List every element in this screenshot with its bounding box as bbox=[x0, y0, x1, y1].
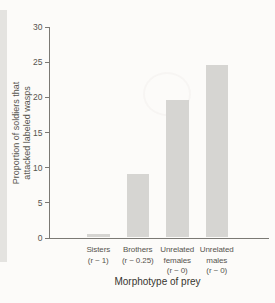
y-tick-label-10: 10 bbox=[25, 163, 43, 173]
bar-unrelated-females bbox=[166, 100, 189, 237]
y-tick-label-30: 30 bbox=[25, 22, 43, 32]
y-tick-mark-25 bbox=[45, 62, 49, 63]
x-category-label-line: Unrelated bbox=[188, 245, 246, 256]
x-category-label-line: (r ~ 0) bbox=[188, 266, 246, 277]
x-axis-title: Morphotype of prey bbox=[50, 276, 265, 288]
y-tick-label-25: 25 bbox=[25, 57, 43, 67]
y-tick-mark-20 bbox=[45, 97, 49, 98]
bar-unrelated-males bbox=[206, 65, 229, 237]
y-tick-label-0: 0 bbox=[25, 233, 43, 243]
x-axis-line bbox=[49, 238, 269, 239]
y-axis-line bbox=[49, 27, 50, 239]
y-tick-mark-30 bbox=[45, 27, 49, 28]
y-tick-mark-15 bbox=[45, 132, 49, 133]
y-tick-mark-10 bbox=[45, 167, 49, 168]
x-category-label-unrelated-males: Unrelatedmales(r ~ 0) bbox=[188, 245, 246, 277]
y-tick-mark-0 bbox=[45, 238, 49, 239]
y-tick-mark-5 bbox=[45, 202, 49, 203]
y-tick-label-15: 15 bbox=[25, 128, 43, 138]
x-category-label-line: males bbox=[188, 256, 246, 267]
y-tick-label-5: 5 bbox=[25, 198, 43, 208]
bar-sisters bbox=[87, 234, 110, 238]
y-axis-title-line-1: Proportion of soldiers that bbox=[11, 82, 22, 185]
bar-brothers bbox=[127, 174, 150, 237]
bar-chart: Proportion of soldiers that attacked lab… bbox=[0, 0, 275, 303]
figure-panel: Proportion of soldiers that attacked lab… bbox=[0, 0, 275, 303]
y-tick-label-20: 20 bbox=[25, 92, 43, 102]
